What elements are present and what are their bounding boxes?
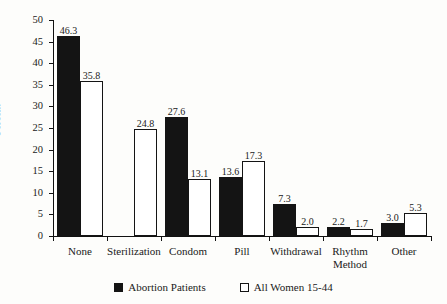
bar-value-label: 2.0 [301,217,314,227]
bar-value-label: 13.6 [222,167,240,177]
bar-value-label: 35.8 [83,71,101,81]
x-axis-tick [269,236,270,241]
bar-value-label: 1.7 [355,219,368,229]
x-axis-tick [377,236,378,241]
open-square-icon [240,283,249,292]
bar-chart: Percent 0510152025303540455046.335.824.8… [0,0,447,304]
y-axis-tick-label: 50 [33,15,44,26]
bar-group: 13.617.3 [215,20,269,236]
x-axis-tick [53,236,54,241]
x-axis-category-label: Condom [161,245,215,258]
legend-item: All Women 15-44 [240,281,333,293]
bar: 13.1 [188,179,211,236]
legend-label: Abortion Patients [128,281,205,293]
bar: 27.6 [165,117,188,236]
chart-legend: Abortion PatientsAll Women 15-44 [0,281,447,293]
x-axis-category-label: Rhythm Method [323,245,377,271]
bar-value-label: 7.3 [278,194,291,204]
bar: 3.0 [381,223,404,236]
bar: 7.3 [273,204,296,236]
x-axis-tick [107,236,108,241]
y-axis-tick-label: 0 [38,231,43,242]
y-axis-tick-label: 40 [33,58,44,69]
y-axis-tick-label: 10 [33,188,44,199]
x-axis-tick [161,236,162,241]
y-axis-tick-label: 20 [33,144,44,155]
x-axis-category-label: None [53,245,107,258]
bar: 46.3 [57,36,80,236]
bar: 24.8 [134,129,157,236]
x-axis-category-label: Other [377,245,431,258]
y-axis-tick-label: 35 [33,80,44,91]
bar: 2.0 [296,227,319,236]
y-axis-tick-label: 5 [38,209,43,220]
y-axis-tick-label: 25 [33,123,44,134]
bar-group: 27.613.1 [161,20,215,236]
filled-square-icon [114,283,123,292]
plot-area: 0510152025303540455046.335.824.827.613.1… [53,20,431,236]
bar-group: 24.8 [107,20,161,236]
bar: 1.7 [350,229,373,236]
x-axis-line [53,236,432,237]
bar: 5.3 [404,213,427,236]
legend-label: All Women 15-44 [254,281,333,293]
bar-value-label: 13.1 [191,169,209,179]
x-axis-tick [215,236,216,241]
legend-item: Abortion Patients [114,281,205,293]
bar-value-label: 24.8 [137,119,155,129]
x-axis-tick [431,236,432,241]
bar-group: 7.32.0 [269,20,323,236]
y-axis-tick-label: 45 [33,36,44,47]
bar: 2.2 [327,227,350,237]
bar: 13.6 [219,177,242,236]
x-axis-category-label: Pill [215,245,269,258]
bar-group: 3.05.3 [377,20,431,236]
bar-value-label: 27.6 [168,107,186,117]
bar-value-label: 2.2 [332,217,345,227]
bar-group: 46.335.8 [53,20,107,236]
y-axis-tick-label: 30 [33,101,44,112]
bar-value-label: 3.0 [386,213,399,223]
bar: 35.8 [80,81,103,236]
x-axis-category-label: Withdrawal [269,245,323,258]
bar-value-label: 17.3 [245,151,263,161]
y-axis-title: Percent [0,104,2,136]
bar-group: 2.21.7 [323,20,377,236]
y-axis-tick-label: 15 [33,166,44,177]
bar-value-label: 46.3 [60,26,78,36]
x-axis-tick [323,236,324,241]
x-axis-category-label: Sterilization [107,245,161,258]
bar: 17.3 [242,161,265,236]
bar-value-label: 5.3 [409,203,422,213]
